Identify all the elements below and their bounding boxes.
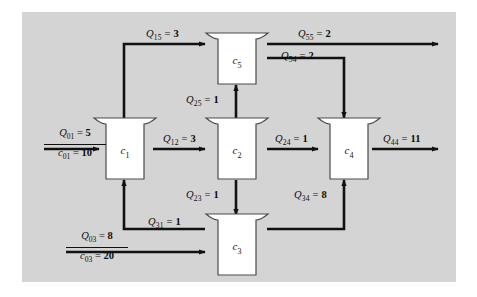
label-Q25: Q25 = 1 xyxy=(186,94,219,108)
label-Q12: Q12 = 3 xyxy=(163,133,196,147)
node-c5[interactable]: c5 xyxy=(218,39,256,84)
node-c2-label: c2 xyxy=(218,144,256,159)
label-Q03: Q03 = 8 xyxy=(66,229,128,246)
label-Q31: Q31 = 1 xyxy=(148,216,181,230)
node-c4[interactable]: c4 xyxy=(330,124,368,179)
node-c3-label: c3 xyxy=(218,240,256,255)
label-Q34: Q34 = 8 xyxy=(294,189,327,203)
label-Q23: Q23 = 1 xyxy=(186,189,219,203)
label-c03: c03 = 20 xyxy=(66,249,128,266)
node-c4-label: c4 xyxy=(330,144,368,159)
node-c2[interactable]: c2 xyxy=(218,124,256,179)
inlet-divider-c3 xyxy=(66,247,128,248)
line-Q34 xyxy=(267,180,344,229)
node-c3[interactable]: c3 xyxy=(218,220,256,275)
node-c1-label: c1 xyxy=(106,144,144,159)
inlet-label-c3: Q03 = 8 c03 = 20 xyxy=(66,229,128,267)
node-c5-label: c5 xyxy=(218,54,256,69)
label-Q24: Q24 = 1 xyxy=(275,133,308,147)
label-Q44: Q44 = 11 xyxy=(383,133,421,147)
label-c01: c01 = 10 xyxy=(44,146,106,163)
line-Q54 xyxy=(267,58,344,118)
label-Q01: Q01 = 5 xyxy=(44,126,106,143)
label-Q54: Q54 = 2 xyxy=(281,50,314,64)
label-Q55: Q55 = 2 xyxy=(298,28,331,42)
node-c1[interactable]: c1 xyxy=(106,124,144,179)
label-Q15: Q15 = 3 xyxy=(146,28,179,42)
inlet-divider-c1 xyxy=(44,144,106,145)
inlet-label-c1: Q01 = 5 c01 = 10 xyxy=(44,126,106,164)
